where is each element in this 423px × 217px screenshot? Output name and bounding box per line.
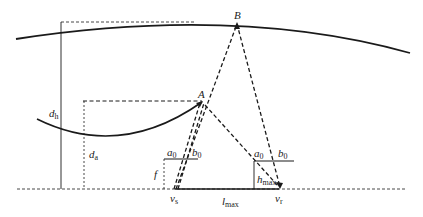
- label-dh: dh: [49, 107, 59, 121]
- label-a0-right: a0: [254, 147, 264, 161]
- label-da: da: [89, 148, 99, 162]
- label-a: A: [197, 88, 205, 100]
- label-b: B: [234, 9, 241, 21]
- diagram-canvas: B A dh da f a0 b0 a0 b0 hmax vs lmax vr: [0, 0, 423, 217]
- label-f: f: [154, 168, 159, 180]
- label-b0-left: b0: [192, 146, 202, 160]
- b-to-vr-ray: [237, 24, 280, 187]
- lower-curve: [37, 102, 202, 136]
- vs-to-a-ray-2: [178, 103, 204, 189]
- label-vr: vr: [275, 192, 283, 206]
- a-to-vr-ray: [205, 105, 279, 187]
- label-lmax: lmax: [222, 195, 239, 209]
- label-b0-right: b0: [278, 147, 288, 161]
- label-a0-left: a0: [167, 146, 177, 160]
- arrow-at-vr: [276, 182, 283, 189]
- label-vs: vs: [170, 192, 178, 206]
- upper-arc: [16, 25, 410, 53]
- label-hmax: hmax: [257, 173, 276, 187]
